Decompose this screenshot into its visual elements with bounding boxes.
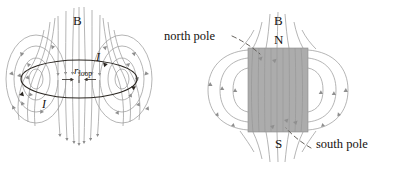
loop-radius-symbol: r bbox=[74, 64, 78, 76]
south-pole-caption: south pole bbox=[316, 138, 368, 151]
bar-magnet-body bbox=[248, 48, 308, 132]
north-pole-letter: N bbox=[274, 33, 283, 46]
magnetic-field-comparison-figure: B I I rloop B N S north pole south pole bbox=[0, 0, 394, 170]
left-current-label-top: I bbox=[96, 51, 100, 63]
loop-radius-label: rloop bbox=[74, 65, 92, 76]
loop-radius-subscript: loop bbox=[79, 69, 92, 78]
left-field-label-B: B bbox=[73, 14, 82, 27]
left-current-label-bottom: I bbox=[42, 98, 46, 110]
south-pole-letter: S bbox=[275, 137, 282, 150]
right-field-label-B: B bbox=[274, 14, 283, 27]
north-pole-caption: north pole bbox=[164, 30, 215, 43]
